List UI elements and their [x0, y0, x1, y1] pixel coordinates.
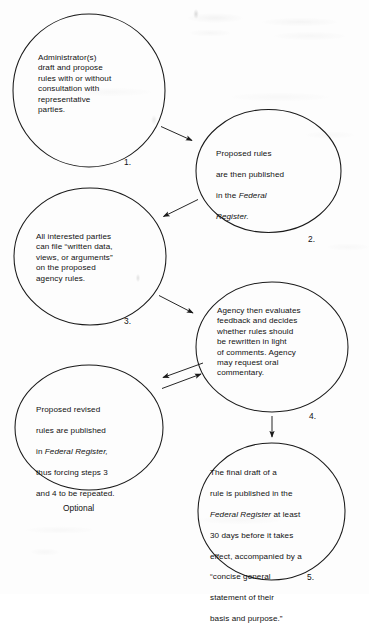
node-2-line-3-prefix: in the [216, 191, 239, 200]
node-2-line-1: Proposed rules [216, 149, 272, 158]
node-5-line-3-suffix: at least [271, 510, 300, 519]
node-optional-caption: Optional [63, 503, 94, 513]
node-5-line-1: The final draft of a [210, 468, 277, 477]
node-2-line-4-italic: Register. [216, 212, 249, 221]
node-optional-line-5: and 4 to be repeated. [36, 489, 115, 498]
node-2-number: 2. [308, 234, 315, 244]
node-4-text: Agency then evaluates feedback and decid… [217, 306, 345, 379]
node-5-text: The final draft of a rule is published i… [210, 458, 342, 625]
node-4-number: 4. [309, 411, 316, 421]
node-optional-line-3-italic: Federal Register, [45, 447, 108, 456]
node-optional-line-2: rules are published [36, 426, 106, 435]
node-5-line-5: effect, accompanied by a [210, 552, 302, 561]
node-5-line-6: “concise general [210, 572, 271, 581]
node-optional-line-1: Proposed revised [36, 405, 100, 414]
node-5-line-7: statement of their [210, 593, 274, 602]
node-3-number: 3. [124, 316, 131, 326]
node-optional-line-3-prefix: in [36, 447, 45, 456]
node-optional-text: Proposed revised rules are published in … [36, 395, 160, 499]
node-5-line-4: 30 days before it takes [210, 531, 293, 540]
node-5-line-8: basis and purpose.” [210, 614, 283, 623]
node-3-text: All interested parties can file “written… [36, 232, 158, 284]
node-2-line-3-italic: Federal [239, 191, 267, 200]
arrow-1-to-2 [161, 127, 192, 141]
node-1-text: Administrator(s) draft and propose rules… [38, 53, 150, 115]
node-5-line-3-italic: Federal Register [210, 510, 271, 519]
node-5-line-2: rule is published in the [210, 489, 292, 498]
node-2-text: Proposed rules are then published in the… [216, 139, 334, 222]
node-1-number: 1. [124, 157, 131, 167]
arrow-3-to-4 [159, 296, 193, 314]
node-2-line-2: are then published [216, 170, 284, 179]
arrow-2-to-3 [164, 200, 199, 217]
node-optional-line-4: thus forcing steps 3 [36, 468, 108, 477]
node-5-number: 5. [307, 572, 314, 582]
